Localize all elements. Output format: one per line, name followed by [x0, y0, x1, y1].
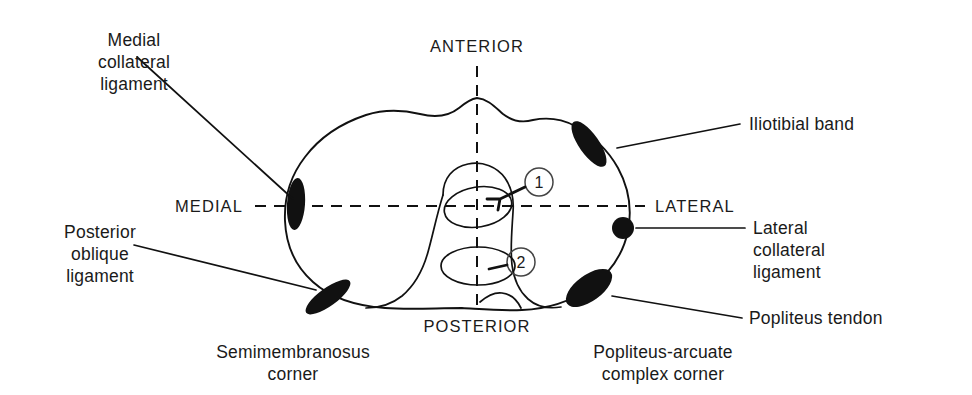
posterior-oblique-ligament-leader — [134, 245, 316, 290]
popliteus-arcuate-complex-corner-label-line-1: Popliteus-arcuate — [593, 342, 733, 362]
posterior-oblique-ligament-label-line-3: ligament — [66, 266, 134, 286]
semimembranosus-corner-label-line-1: Semimembranosus — [216, 342, 370, 362]
callout-1-number: 1 — [535, 174, 544, 191]
callout-2-number: 2 — [517, 254, 526, 271]
posterior-oblique-ligament-label-line-1: Posterior — [64, 222, 136, 242]
lateral-collateral-ligament-label-line-3: ligament — [753, 262, 821, 282]
callout-2-pointer — [489, 265, 507, 269]
posterior-oblique-ligament-marker — [301, 274, 355, 320]
medial-collateral-ligament-label-line-2: collateral — [98, 52, 170, 72]
iliotibial-band-label: Iliotibial band — [749, 114, 854, 134]
posterior-oblique-ligament-label-line-2: oblique — [71, 244, 129, 264]
popliteus-tendon-leader — [612, 296, 742, 318]
iliotibial-band-marker — [565, 116, 612, 172]
medial-collateral-ligament-marker — [285, 177, 307, 230]
lateral-collateral-ligament-label-line-1: Lateral — [753, 218, 808, 238]
popliteus-tendon-label: Popliteus tendon — [749, 308, 883, 328]
lateral-label: LATERAL — [655, 197, 735, 215]
tibial-plateau-diagram: 1 2 ANTERIOR POSTERIOR MEDIAL LATERAL Me… — [0, 0, 972, 395]
posterior-intercondylar-notch — [480, 293, 521, 308]
lateral-collateral-ligament-marker — [612, 217, 634, 239]
popliteus-arcuate-complex-corner-label-line-2: complex corner — [602, 364, 724, 384]
anatomical-figure: 1 2 ANTERIOR POSTERIOR MEDIAL LATERAL Me… — [0, 0, 972, 395]
lateral-collateral-ligament-label-line-2: collateral — [753, 240, 825, 260]
anterior-label: ANTERIOR — [430, 37, 524, 55]
medial-condyle-inner-contour — [366, 195, 443, 308]
posterior-label: POSTERIOR — [423, 317, 530, 335]
medial-collateral-ligament-label-line-3: ligament — [100, 74, 168, 94]
iliotibial-band-leader — [617, 124, 740, 148]
medial-collateral-ligament-label-line-1: Medial — [108, 30, 161, 50]
medial-label: MEDIAL — [175, 197, 243, 215]
semimembranosus-corner-label-line-2: corner — [268, 364, 319, 384]
